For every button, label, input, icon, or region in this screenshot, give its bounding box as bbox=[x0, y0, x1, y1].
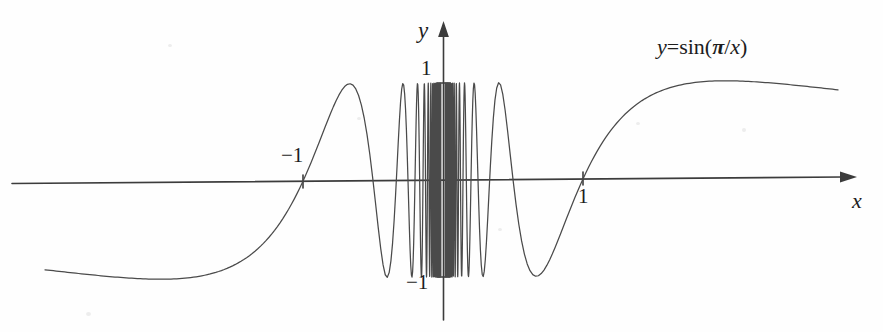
equation-argument: x bbox=[730, 34, 740, 59]
y-tick-label-one: 1 bbox=[421, 58, 432, 79]
x-tick-label-minus-one: −1 bbox=[281, 145, 303, 166]
y-axis-label: y bbox=[418, 19, 428, 42]
y-tick-label-minus-one: −1 bbox=[406, 272, 428, 293]
equation-annotation: y=sin(π/x) bbox=[657, 36, 747, 58]
equation-close-paren: ) bbox=[740, 34, 747, 59]
equation-lhs: y bbox=[657, 34, 667, 59]
figure-container: y x 1 −1 −1 1 y=sin(π/x) bbox=[0, 0, 883, 332]
y-axis-arrow-icon bbox=[438, 21, 449, 37]
equation-pi-symbol: π bbox=[712, 34, 724, 59]
equation-function: sin( bbox=[679, 34, 712, 59]
plot-canvas bbox=[0, 0, 883, 332]
x-axis-label: x bbox=[852, 190, 862, 212]
x-tick-label-one: 1 bbox=[578, 186, 589, 207]
equation-equals: = bbox=[667, 34, 679, 59]
x-axis-arrow-icon bbox=[840, 172, 857, 183]
